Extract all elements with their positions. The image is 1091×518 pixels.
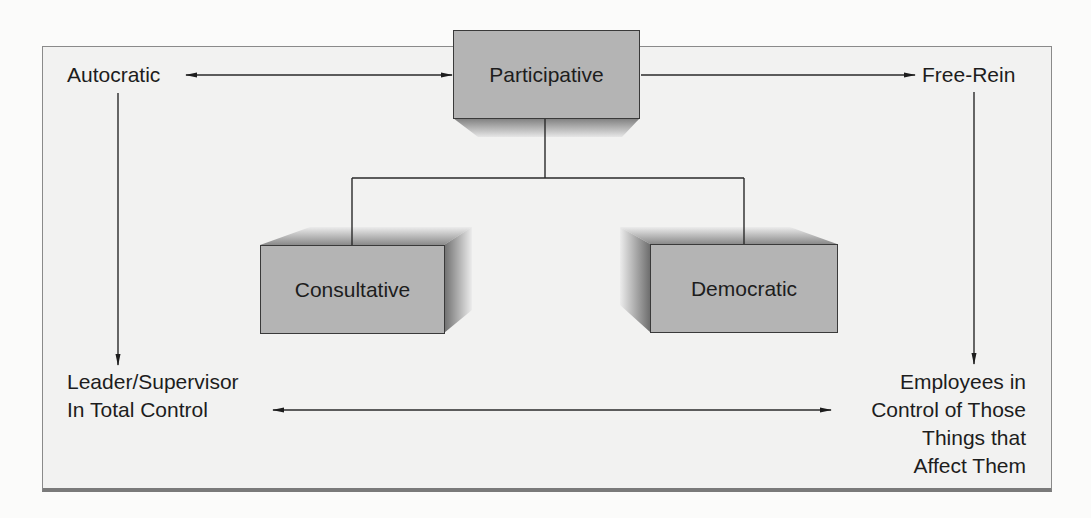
democratic-shadow-top	[620, 227, 837, 244]
free-rein-label: Free-Rein	[922, 61, 1015, 89]
left-extreme-label: Leader/Supervisor In Total Control	[67, 368, 239, 424]
right-extreme-label: Employees in Control of Those Things tha…	[871, 368, 1026, 480]
consultative-shadow-right	[444, 227, 472, 333]
democratic-label: Democratic	[691, 277, 797, 301]
left-extreme-line-2: In Total Control	[67, 396, 239, 424]
democratic-box: Democratic	[650, 244, 838, 333]
right-extreme-line-4: Affect Them	[871, 452, 1026, 480]
consultative-shadow-top	[260, 227, 472, 245]
participative-label: Participative	[489, 63, 603, 87]
participative-shadow	[453, 118, 640, 137]
democratic-shadow-left	[620, 227, 650, 332]
right-extreme-line-2: Control of Those	[871, 396, 1026, 424]
participative-box: Participative	[453, 30, 640, 119]
right-extreme-line-3: Things that	[871, 424, 1026, 452]
consultative-box: Consultative	[260, 245, 445, 334]
autocratic-label: Autocratic	[67, 61, 160, 89]
left-extreme-line-1: Leader/Supervisor	[67, 368, 239, 396]
consultative-label: Consultative	[295, 278, 411, 302]
right-extreme-line-1: Employees in	[871, 368, 1026, 396]
